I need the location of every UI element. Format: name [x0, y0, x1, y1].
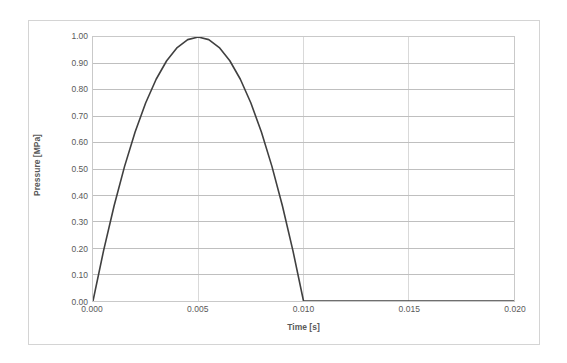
y-axis-tick-label: 0.20	[28, 245, 88, 254]
plot-area	[92, 36, 515, 302]
y-axis-tick-label: 1.00	[28, 32, 88, 41]
x-axis-tick-label: 0.020	[480, 305, 550, 314]
x-axis-tick-label: 0.010	[269, 305, 339, 314]
x-axis-tick-label: 0.015	[374, 305, 444, 314]
chart-figure: Pressure [MPa] 0.000.100.200.300.400.500…	[0, 0, 567, 363]
y-axis-tick-label: 0.90	[28, 58, 88, 67]
x-axis-tick-label: 0.005	[163, 305, 233, 314]
x-axis-tick-labels: 0.0000.0050.0100.0150.020	[92, 305, 515, 319]
y-axis-tick-label: 0.40	[28, 191, 88, 200]
plot-svg	[93, 37, 514, 301]
y-axis-tick-label: 0.30	[28, 218, 88, 227]
y-axis-tick-label: 0.10	[28, 271, 88, 280]
y-axis-tick-label: 0.70	[28, 112, 88, 121]
y-axis-tick-label: 0.80	[28, 85, 88, 94]
y-axis-tick-label: 0.50	[28, 165, 88, 174]
y-axis-tick-labels: 0.000.100.200.300.400.500.600.700.800.90…	[22, 36, 88, 302]
x-axis-title: Time [s]	[92, 322, 515, 332]
x-axis-tick-label: 0.000	[57, 305, 127, 314]
y-axis-tick-label: 0.60	[28, 138, 88, 147]
